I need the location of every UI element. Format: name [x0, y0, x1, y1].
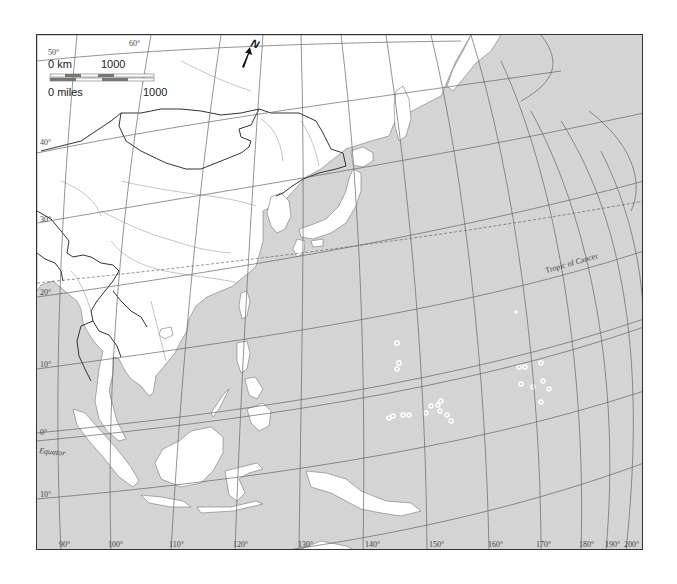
lon-label-120: 120° — [233, 540, 248, 549]
map-frame: 50° 60° 40° 30° 20° 10° 0° 10° Equator T… — [36, 34, 643, 550]
lon-label-190: 190° — [605, 540, 620, 549]
scale-km-zero: 0 km — [48, 58, 72, 70]
lat-label-0: 0° — [40, 428, 47, 437]
lon-label-180: 180° — [579, 540, 594, 549]
map-canvas[interactable]: 50° 60° 40° 30° 20° 10° 0° 10° Equator T… — [37, 35, 643, 550]
lat-label-20: 20° — [40, 288, 51, 297]
lon-label-100: 100° — [108, 540, 123, 549]
lat-label-10s: 10° — [40, 490, 51, 499]
lat-label-60: 60° — [129, 39, 140, 48]
lon-label-160: 160° — [488, 540, 503, 549]
lat-label-40: 40° — [40, 138, 51, 147]
lon-label-140: 140° — [365, 540, 380, 549]
lon-label-150: 150° — [429, 540, 444, 549]
lon-label-170: 170° — [536, 540, 551, 549]
lon-label-130: 130° — [298, 540, 313, 549]
island-dot — [514, 310, 518, 314]
lat-label-10n: 10° — [40, 360, 51, 369]
lat-label-50: 50° — [48, 48, 59, 57]
scale-km-max: 1000 — [101, 58, 125, 70]
lat-label-30: 30° — [40, 215, 51, 224]
scale-miles-max: 1000 — [143, 86, 167, 98]
lon-label-200: 200° — [624, 540, 639, 549]
lon-label-110: 110° — [169, 540, 184, 549]
lon-label-90: 90° — [59, 540, 70, 549]
scale-miles-zero: 0 miles — [48, 86, 83, 98]
